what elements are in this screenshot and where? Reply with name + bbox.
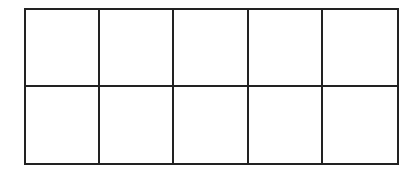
grid-cell: [249, 87, 323, 164]
grid-cell: [323, 10, 397, 87]
grid-cell: [249, 10, 323, 87]
grid-cell: [100, 10, 174, 87]
grid-cell: [323, 87, 397, 164]
grid-diagram: [24, 8, 399, 165]
grid-cell: [26, 10, 100, 87]
grid-cell: [26, 87, 100, 164]
grid-cell: [100, 87, 174, 164]
grid-cell: [174, 10, 248, 87]
grid-cell: [174, 87, 248, 164]
